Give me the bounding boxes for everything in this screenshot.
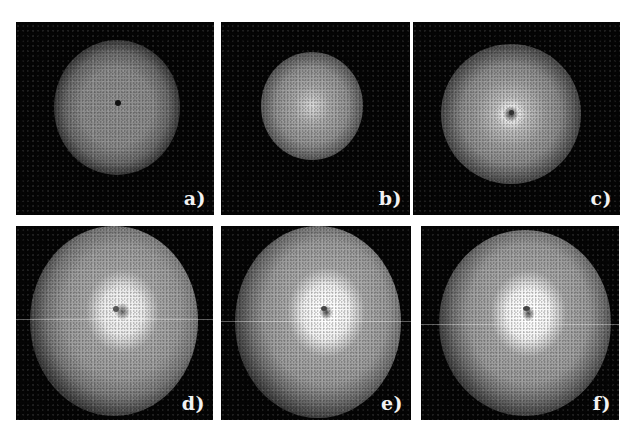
center-dot: [509, 110, 514, 115]
center-dot: [523, 306, 530, 311]
panel-a: a): [16, 22, 214, 215]
panel-d: d): [16, 226, 213, 420]
speckle-noise: [413, 22, 620, 215]
panel-c: c): [413, 22, 620, 215]
speckle-noise: [16, 226, 213, 420]
panel-f: f): [421, 226, 619, 420]
panel-label-c: c): [590, 187, 612, 209]
panel-label-a: a): [184, 187, 206, 209]
scan-line: [221, 321, 411, 322]
center-dot: [115, 100, 121, 106]
scan-line: [16, 319, 213, 320]
panel-label-f: f): [593, 392, 611, 414]
speckle-noise: [421, 226, 619, 420]
panel-e: e): [221, 226, 411, 420]
panel-label-d: d): [182, 392, 205, 414]
center-dot: [321, 306, 327, 311]
panel-label-b: b): [379, 187, 402, 209]
center-dot: [113, 306, 119, 312]
scan-line: [421, 324, 619, 325]
speckle-noise: [221, 226, 411, 420]
panel-label-e: e): [381, 392, 403, 414]
panel-b: b): [221, 22, 410, 215]
